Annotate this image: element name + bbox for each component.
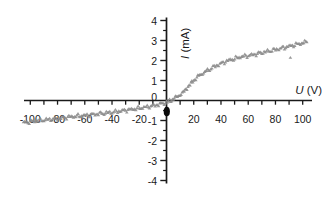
y-tick-label: -4 [148, 175, 157, 187]
y-tick-label: 3 [151, 35, 157, 47]
y-tick-label: 0 [151, 91, 157, 103]
y-tick-label: 2 [151, 55, 157, 67]
y-tick-label: 4 [151, 15, 157, 27]
x-tick-label: 80 [270, 113, 282, 125]
x-tick-label: 60 [242, 113, 254, 125]
origin-dot [164, 107, 170, 117]
iv-characteristic-figure: -100-80-60-40-202040608010043210-1-2-3-4… [0, 0, 331, 198]
x-tick-label: 20 [188, 113, 200, 125]
y-axis-title: I (mA) [179, 28, 191, 59]
data-point [168, 97, 172, 100]
y-tick-label: -3 [148, 155, 157, 167]
y-tick-label: 1 [151, 75, 157, 87]
x-tick-label: 100 [294, 113, 312, 125]
y-tick-label: -2 [148, 135, 157, 147]
x-tick-label: -20 [132, 113, 147, 125]
x-tick-label: 40 [215, 113, 227, 125]
x-axis-title: U (V) [295, 84, 322, 96]
y-tick-label: -1 [148, 115, 157, 127]
iv-curve-plot: -100-80-60-40-202040608010043210-1-2-3-4… [0, 0, 331, 198]
outlier-point [289, 56, 293, 59]
x-tick-label: -40 [104, 113, 119, 125]
